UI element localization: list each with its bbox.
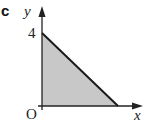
x-axis-label: x xyxy=(134,108,141,121)
coordinate-diagram xyxy=(0,0,143,121)
y-intercept-label: 4 xyxy=(28,26,36,41)
y-axis-arrow-icon xyxy=(39,6,46,17)
y-axis-label: y xyxy=(24,4,31,19)
origin-label: O xyxy=(26,107,37,121)
